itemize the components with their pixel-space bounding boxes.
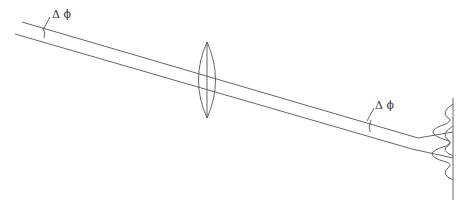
angle-marker-left: [43, 17, 50, 38]
lens: [199, 42, 216, 118]
delta-phi-label-right: Δ ϕ: [375, 99, 394, 112]
ray-upper: [22, 22, 418, 138]
angle-marker-right: [367, 108, 374, 132]
intensity-pattern-upper: [433, 104, 453, 156]
optics-diagram: [0, 0, 470, 211]
delta-phi-label-left: Δ ϕ: [52, 8, 71, 21]
ray-lower: [15, 34, 412, 149]
